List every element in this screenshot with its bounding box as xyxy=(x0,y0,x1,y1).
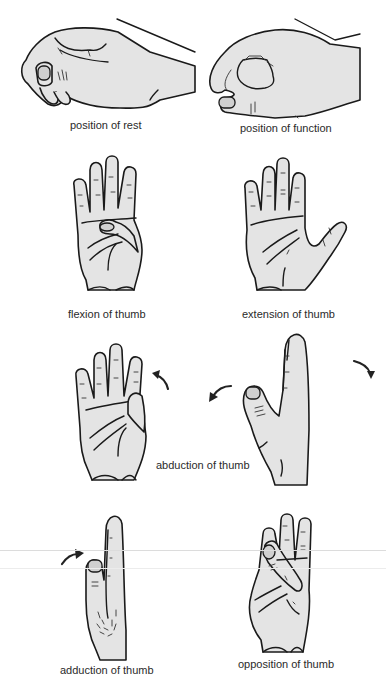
adduction-arrow-icon xyxy=(58,544,88,574)
panel-extension-of-thumb: extension of thumb xyxy=(195,140,386,320)
panel-position-of-function: position of function xyxy=(195,0,386,135)
panel-flexion-of-thumb: flexion of thumb xyxy=(0,140,195,320)
hand-extension-illustration xyxy=(195,140,386,305)
label-position-of-function: position of function xyxy=(240,122,332,134)
hand-opposition-illustration xyxy=(195,500,386,665)
panel-adduction-of-thumb: adduction of thumb xyxy=(0,500,195,685)
panel-opposition-of-thumb: opposition of thumb xyxy=(195,500,386,685)
hand-adduction-illustration xyxy=(0,500,195,665)
abduction-arrow-icon xyxy=(205,380,235,410)
panel-abduction-of-thumb-palm: abduction of thumb xyxy=(0,320,195,500)
label-opposition-of-thumb: opposition of thumb xyxy=(238,658,334,670)
scan-artifact-line xyxy=(0,568,386,569)
hand-rest-illustration xyxy=(0,0,195,120)
panel-position-of-rest: position of rest xyxy=(0,0,195,135)
hand-flexion-illustration xyxy=(0,140,195,305)
panel-abduction-of-thumb-side xyxy=(195,320,386,500)
hand-abduction-side-illustration xyxy=(195,320,386,500)
label-flexion-of-thumb: flexion of thumb xyxy=(68,308,146,320)
hand-function-illustration xyxy=(195,0,386,120)
label-adduction-of-thumb: adduction of thumb xyxy=(60,664,154,676)
label-extension-of-thumb: extension of thumb xyxy=(242,308,335,320)
label-position-of-rest: position of rest xyxy=(70,119,142,131)
scan-artifact-line xyxy=(0,550,386,551)
